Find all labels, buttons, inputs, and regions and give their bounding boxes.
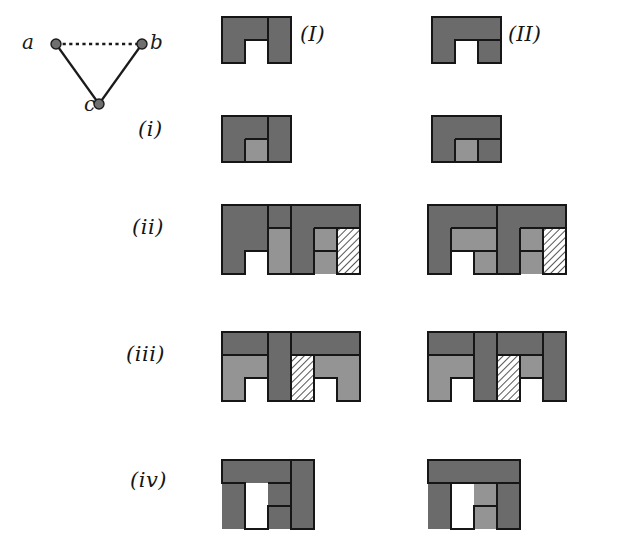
cell-0-0-dark: [291, 205, 314, 228]
cell-0-0-dark: [497, 332, 520, 355]
header-shape-I-svg: [219, 14, 294, 66]
header-shape-II-svg: [429, 14, 504, 66]
row-label-ii: (ii): [132, 215, 164, 239]
cell-0-1-dark: [222, 228, 245, 251]
triangle-graph: a b c: [18, 18, 178, 123]
cell-3-0-dark: [291, 460, 314, 483]
cell-0-1-dark: [428, 483, 451, 506]
cell-2-1-light: [337, 355, 360, 378]
cell-0-0-dark: [222, 17, 245, 40]
cell-3-2-dark: [291, 506, 314, 529]
header-shape-II: [429, 14, 504, 66]
graph-node-b: [137, 39, 147, 49]
graph-node-label-a: a: [22, 30, 34, 54]
cell-2-1-dark: [268, 139, 291, 162]
row-iv-shape-I: [219, 457, 317, 532]
row-ii-shape-II-a: [425, 202, 500, 277]
cell-2-0-dark: [543, 332, 566, 355]
cell-1-0-dark: [455, 116, 478, 139]
cell-1-1-light: [245, 139, 268, 162]
cell-0-2-dark: [222, 251, 245, 274]
row-iv-shape-II: [425, 457, 523, 532]
row-iv-shape-I-svg: [219, 457, 317, 532]
cell-0-2-dark: [428, 251, 451, 274]
cell-0-0-dark: [432, 17, 455, 40]
cell-0-2-dark: [428, 506, 451, 529]
graph-node-a: [51, 39, 61, 49]
cell-2-2-light: [337, 378, 360, 401]
cell-1-0-dark: [245, 332, 268, 355]
row-iii-shape-II-a-svg: [425, 329, 500, 404]
cell-0-1-light: [222, 355, 245, 378]
cell-0-2-dark: [291, 251, 314, 274]
cell-2-1-light: [474, 483, 497, 506]
cell-1-1-light: [451, 355, 474, 378]
row-ii-shape-I-b: [288, 202, 363, 277]
cell-0-0-dark: [222, 116, 245, 139]
cell-2-1-dark: [543, 355, 566, 378]
row-iii-shape-I-b-svg: [288, 329, 363, 404]
cell-2-1-dark: [268, 483, 291, 506]
cell-2-0-dark: [268, 17, 291, 40]
cell-2-0-dark: [337, 332, 360, 355]
column-header-I: (I): [300, 22, 325, 46]
header-shape-I: [219, 14, 294, 66]
cell-1-0-dark: [314, 205, 337, 228]
cell-0-0-dark: [222, 205, 245, 228]
cell-1-0-dark: [455, 17, 478, 40]
graph-node-c: [94, 99, 104, 109]
cell-0-0-dark: [428, 332, 451, 355]
cell-0-1-dark: [222, 139, 245, 162]
cell-2-1-dark: [268, 40, 291, 63]
polyomino-figure: a b c (I) (II) (i) (ii) (iii) (iv): [0, 0, 627, 550]
row-iii-shape-II-b: [494, 329, 569, 404]
cell-0-1-dark: [497, 228, 520, 251]
cell-1-1-dark: [245, 228, 268, 251]
cell-0-1-dark: [432, 139, 455, 162]
row-label-iii: (iii): [126, 342, 165, 366]
cell-1-1-light: [314, 228, 337, 251]
cell-0-1-light: [428, 355, 451, 378]
cell-1-0-dark: [245, 460, 268, 483]
row-iv-shape-II-svg: [425, 457, 523, 532]
row-ii-shape-I-b-svg: [288, 202, 363, 277]
cell-1-0-dark: [245, 17, 268, 40]
row-label-iv: (iv): [130, 468, 167, 492]
cell-2-0-dark: [337, 205, 360, 228]
cell-1-1-light: [245, 355, 268, 378]
cell-0-0-dark: [428, 205, 451, 228]
row-ii-shape-I-a: [219, 202, 294, 277]
cell-1-2-light: [314, 251, 337, 274]
cell-0-1-hatch: [291, 355, 314, 378]
row-iii-shape-II-b-svg: [494, 329, 569, 404]
cell-1-1-light: [520, 355, 543, 378]
graph-node-label-b: b: [150, 30, 163, 54]
row-i-shape-II: [429, 113, 504, 165]
cell-1-0-dark: [245, 205, 268, 228]
cell-0-0-dark: [222, 332, 245, 355]
cell-2-2-dark: [543, 378, 566, 401]
cell-1-0-dark: [520, 205, 543, 228]
cell-2-1-dark: [478, 139, 501, 162]
row-iii-shape-II-a: [425, 329, 500, 404]
cell-2-2-hatch: [543, 251, 566, 274]
cell-2-0-dark: [543, 205, 566, 228]
row-label-i: (i): [138, 117, 163, 141]
cell-0-2-light: [428, 378, 451, 401]
cell-2-1-dark: [478, 40, 501, 63]
row-i-shape-I: [219, 113, 294, 165]
cell-0-0-dark: [497, 205, 520, 228]
cell-2-2-light: [474, 506, 497, 529]
cell-0-1-dark: [428, 228, 451, 251]
cell-2-0-dark: [478, 116, 501, 139]
row-ii-shape-II-b: [494, 202, 569, 277]
cell-2-1-hatch: [337, 228, 360, 251]
cell-0-2-hatch: [291, 378, 314, 401]
cell-1-0-dark: [451, 460, 474, 483]
cell-1-0-dark: [451, 205, 474, 228]
cell-0-0-dark: [291, 332, 314, 355]
cell-2-0-dark: [474, 460, 497, 483]
row-i-shape-II-svg: [429, 113, 504, 165]
cell-2-0-dark: [268, 116, 291, 139]
row-iii-shape-I-a-svg: [219, 329, 294, 404]
